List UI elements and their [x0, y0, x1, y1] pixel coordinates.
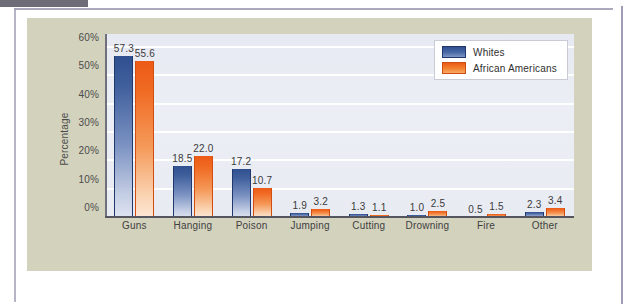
y-axis-tick-label: 40% [78, 88, 105, 99]
bar[interactable]: 10.7 [253, 188, 272, 218]
y-axis-title: Percentage [59, 112, 70, 165]
x-axis-category-labels: GunsHangingPoisonJumpingCuttingDrowningF… [105, 220, 574, 242]
bar-value-label: 1.1 [372, 202, 387, 213]
bar-value-label: 1.0 [410, 202, 425, 213]
bar-value-label: 55.6 [135, 48, 155, 59]
legend-label: Whites [473, 47, 505, 58]
x-axis-tick-label: Guns [105, 220, 164, 242]
bar[interactable]: 22.0 [194, 156, 213, 218]
page-corner-artifact [0, 0, 88, 7]
bar-value-label: 2.5 [431, 198, 446, 209]
bar[interactable]: 18.5 [173, 166, 192, 218]
x-axis-line [105, 216, 574, 218]
bar-value-label: 1.3 [351, 201, 366, 212]
bar-value-label: 1.9 [292, 200, 307, 211]
x-axis-tick-label: Cutting [340, 220, 399, 242]
bar-value-label: 3.2 [313, 196, 328, 207]
bar[interactable]: 55.6 [135, 61, 154, 218]
bar-group: 1.31.1 [340, 34, 399, 218]
bar-value-label: 2.3 [527, 199, 542, 210]
bar-slot: 3.2 [311, 34, 330, 218]
bar-slot: 1.3 [349, 34, 368, 218]
bar-slot: 17.2 [232, 34, 251, 218]
bar-value-label: 10.7 [252, 175, 272, 186]
x-axis-tick-label: Jumping [281, 220, 340, 242]
legend-item[interactable]: Whites [442, 46, 557, 58]
y-axis-tick-label: 30% [78, 117, 105, 128]
x-axis-tick-label: Other [515, 220, 574, 242]
bar-slot: 1.9 [290, 34, 309, 218]
bar-value-label: 22.0 [193, 143, 213, 154]
chart-legend: WhitesAfrican Americans [434, 40, 568, 80]
bar-slot: 18.5 [173, 34, 192, 218]
figure-panel: Percentage 0%10%20%30%40%50%60% 57.355.6… [27, 18, 592, 271]
page-left-rule [14, 8, 16, 302]
page-right-rule [621, 6, 623, 304]
bar-slot: 1.1 [370, 34, 389, 218]
legend-label: African Americans [473, 63, 557, 74]
y-axis-tick-label: 20% [78, 145, 105, 156]
y-axis-tick-label: 10% [78, 173, 105, 184]
x-axis-tick-label: Fire [457, 220, 516, 242]
bar-slot: 57.3 [114, 34, 133, 218]
bar-value-label: 18.5 [172, 153, 192, 164]
bar-group: 18.522.0 [164, 34, 223, 218]
page-top-rule [14, 8, 613, 10]
x-axis-tick-label: Poison [222, 220, 281, 242]
y-axis-tick-label: 50% [78, 60, 105, 71]
bar-value-label: 57.3 [114, 43, 134, 54]
bar-value-label: 3.4 [548, 195, 563, 206]
bar-value-label: 17.2 [231, 156, 251, 167]
y-axis-tick-label: 0% [84, 202, 105, 213]
x-axis-tick-label: Drowning [398, 220, 457, 242]
bar-slot: 55.6 [135, 34, 154, 218]
bar[interactable]: 17.2 [232, 169, 251, 218]
legend-item[interactable]: African Americans [442, 62, 557, 74]
bar[interactable]: 57.3 [114, 56, 133, 218]
bar-value-label: 0.5 [468, 204, 483, 215]
bar-group: 17.210.7 [222, 34, 281, 218]
page-canvas: Percentage 0%10%20%30%40%50%60% 57.355.6… [0, 0, 631, 306]
legend-swatch-icon [442, 62, 466, 74]
y-axis-tick-label: 60% [78, 32, 105, 43]
bar-slot: 1.0 [407, 34, 426, 218]
bar-slot: 22.0 [194, 34, 213, 218]
bar-value-label: 1.5 [489, 201, 504, 212]
legend-swatch-icon [442, 46, 466, 58]
bar-slot: 10.7 [253, 34, 272, 218]
x-axis-tick-label: Hanging [164, 220, 223, 242]
bar-group: 57.355.6 [105, 34, 164, 218]
bar-group: 1.93.2 [281, 34, 340, 218]
chart-container: Percentage 0%10%20%30%40%50%60% 57.355.6… [62, 28, 582, 250]
